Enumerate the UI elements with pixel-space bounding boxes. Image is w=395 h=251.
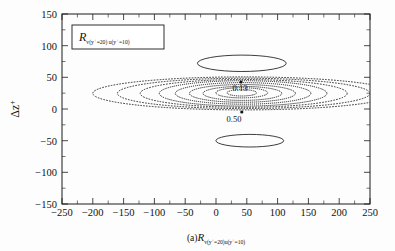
y-tick-label: 100 [41, 41, 57, 52]
caption-sub2-tail: =10) [234, 239, 245, 246]
contour-satellite-upper [197, 55, 286, 71]
contour-level-0.10 [93, 77, 395, 110]
y-tick-label: 150 [41, 9, 57, 20]
y-axis-ticks-right [364, 14, 370, 204]
caption-prefix: (a) [187, 233, 198, 244]
svg-text:(a)Rv(y+=20)u(y+=10): (a)Rv(y+=20)u(y+=10) [187, 231, 245, 246]
x-tick-label: 200 [331, 207, 347, 218]
y-axis-title-delta: Δz [8, 105, 22, 118]
y-axis-ticks [62, 14, 68, 204]
x-tick-label: 50 [242, 207, 253, 218]
figure-caption: (a)Rv(y+=20)u(y+=10) [187, 231, 245, 246]
contour-labels: 0.50 0.13 [227, 83, 248, 124]
y-tick-label: −150 [35, 199, 57, 210]
x-axis-ticks [62, 198, 370, 204]
x-tick-labels: −250 −200 −150 −100 −50 0 50 100 150 200… [51, 207, 378, 218]
legend-sub1-tail: =20) [97, 39, 108, 46]
contour-satellite-lower [216, 134, 284, 147]
contour-group [93, 55, 395, 147]
legend-box: Rv(y+=20) u(y+=10) [72, 25, 164, 49]
x-tick-label: −150 [113, 207, 135, 218]
contour-label-main: 0.50 [227, 114, 242, 124]
legend-sub2-tail: =10) [119, 39, 130, 46]
contour-figure: 0.50 0.13 [0, 0, 395, 251]
y-axis-title: Δz+ [8, 100, 22, 118]
contour-label-upper: 0.13 [233, 83, 248, 93]
x-tick-label: 150 [301, 207, 317, 218]
x-tick-label: −100 [144, 207, 166, 218]
y-axis-title-superscript: + [8, 100, 17, 105]
x-tick-label: −50 [177, 207, 193, 218]
caption-sub1-tail: =20) [214, 239, 225, 246]
x-tick-label: 0 [213, 207, 218, 218]
svg-text:Δz+: Δz+ [8, 100, 22, 118]
y-tick-labels: 150 100 50 0 −50 −100 −150 [35, 9, 57, 210]
y-tick-label: −50 [41, 136, 57, 147]
x-tick-label: −200 [82, 207, 104, 218]
y-tick-label: −100 [35, 167, 57, 178]
y-tick-label: 50 [47, 72, 58, 83]
y-tick-label: 0 [52, 104, 57, 115]
x-axis-ticks-top [62, 14, 370, 20]
plot-svg: 0.50 0.13 [0, 0, 395, 251]
x-tick-label: 250 [362, 207, 378, 218]
x-tick-label: 100 [270, 207, 286, 218]
